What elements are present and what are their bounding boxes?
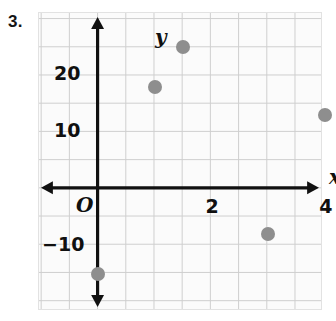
coordinate-plane: y x O2462010−10	[38, 12, 322, 310]
data-point	[318, 108, 332, 122]
origin-label: O	[76, 193, 93, 217]
data-point	[148, 80, 162, 94]
x-axis-label: x	[329, 165, 336, 189]
y-axis-label: y	[155, 25, 167, 49]
y-tick-label: 10	[54, 119, 80, 141]
problem-number: 3.	[8, 12, 23, 32]
gridlines	[39, 13, 321, 309]
y-tick-label: 20	[54, 62, 80, 84]
axes	[41, 17, 319, 307]
worksheet-figure: 3. y x O2462010−10	[0, 0, 336, 321]
grid-and-axes	[39, 13, 321, 309]
x-tick-label: 4	[319, 195, 332, 217]
x-tick-label: 2	[206, 195, 219, 217]
y-tick-label: −10	[42, 233, 84, 255]
